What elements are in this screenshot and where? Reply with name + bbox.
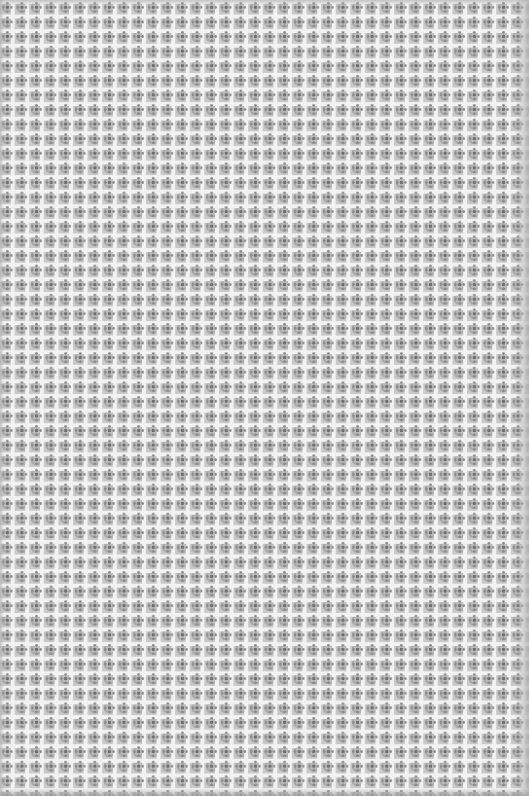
left-edge-shadow — [0, 0, 4, 796]
top-edge-shadow — [0, 0, 529, 5]
right-edge-shadow — [515, 0, 529, 796]
textile-pattern-image: grayscale repeating geometric textile pa… — [0, 0, 529, 796]
bottom-edge-shadow — [0, 788, 529, 796]
